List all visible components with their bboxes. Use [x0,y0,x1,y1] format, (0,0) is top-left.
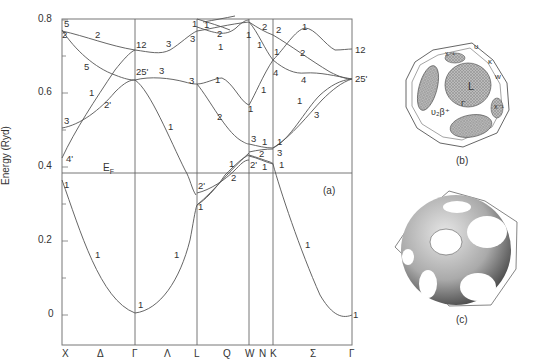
svg-text:25': 25' [355,73,368,84]
svg-text:1: 1 [168,121,173,132]
svg-text:1: 1 [246,29,251,40]
panel-a-label: (a) [323,185,335,196]
xtick-L: L [194,348,200,359]
svg-text:1: 1 [64,179,69,190]
svg-text:1: 1 [192,18,197,29]
svg-text:2: 2 [262,21,267,32]
svg-text:2': 2' [250,159,257,170]
ytick-0.2: 0.2 [38,234,52,245]
xtick-X: X [62,348,69,359]
svg-text:1: 1 [262,161,267,172]
xtick-W: W [245,348,254,359]
xtick-Sigma: Σ [310,348,316,359]
svg-text:1: 1 [257,39,262,50]
svg-text:12: 12 [136,39,147,50]
svg-text:2: 2 [300,47,305,58]
svg-text:1: 1 [297,95,302,106]
svg-text:1: 1 [215,74,220,85]
svg-text:1: 1 [262,136,267,147]
ytick-0.6: 0.6 [38,86,52,97]
panel-b-label: (b) [456,155,468,166]
svg-text:1: 1 [277,136,282,147]
svg-text:2: 2 [62,29,67,40]
fermi-label: EF [103,162,114,175]
svg-text:1: 1 [279,159,284,170]
ytick-0: 0 [48,308,54,319]
panel-c-label: (c) [456,314,468,325]
xtick-Q: Q [223,348,231,359]
svg-text:2: 2 [231,172,236,183]
svg-text:1: 1 [138,299,143,310]
ytick-0.8: 0.8 [38,13,52,24]
svg-text:3: 3 [64,115,69,126]
band-structure-figure: 52 2123 525'3 12' 31 4' 1111 1123 1122 1… [0,0,536,363]
svg-text:3: 3 [190,33,195,44]
svg-text:1: 1 [248,103,253,114]
svg-text:3: 3 [277,147,282,158]
svg-text:1: 1 [353,309,358,320]
y-ticks [62,20,68,315]
svg-text:1: 1 [198,201,203,212]
svg-text:5: 5 [84,61,89,72]
xtick-K: K [270,348,277,359]
svg-text:1: 1 [274,46,279,57]
svg-text:1: 1 [204,19,209,30]
xtick-N: N [259,348,266,359]
ytick-0.4: 0.4 [38,160,52,171]
svg-text:4: 4 [273,67,278,78]
plot-frame [62,19,352,345]
xtick-Gamma: Γ [132,348,138,359]
svg-text:1: 1 [229,158,234,169]
xtick-Gamma-end: Γ [349,348,355,359]
svg-text:1: 1 [89,87,94,98]
svg-text:2: 2 [276,24,281,35]
svg-text:2': 2' [198,180,205,191]
xtick-Delta: Δ [97,348,104,359]
svg-text:1: 1 [305,239,310,250]
svg-text:2: 2 [217,111,222,122]
svg-text:1: 1 [218,41,223,52]
svg-text:3: 3 [251,133,256,144]
svg-text:1: 1 [174,249,179,260]
svg-text:2: 2 [217,28,222,39]
svg-text:3: 3 [314,109,319,120]
svg-text:4': 4' [66,153,73,164]
svg-text:1: 1 [261,84,266,95]
svg-text:4: 4 [301,74,306,85]
svg-text:25': 25' [136,66,149,77]
xtick-Lambda: Λ [164,348,171,359]
svg-text:1: 1 [302,21,307,32]
svg-text:2: 2 [259,148,264,159]
svg-text:2: 2 [95,29,100,40]
svg-text:2': 2' [104,99,111,110]
svg-text:3: 3 [166,38,171,49]
svg-text:3: 3 [159,65,164,76]
svg-text:3: 3 [189,75,194,86]
y-axis-label: Energy (Ryd) [0,126,11,185]
svg-text:1: 1 [95,249,100,260]
svg-text:5: 5 [64,18,69,29]
svg-text:12: 12 [355,44,366,55]
band-labels: 52 2123 525'3 12' 31 4' 1111 1123 1122 1… [62,18,319,310]
gamma-right-labels: 12 25' 1 [353,44,368,320]
